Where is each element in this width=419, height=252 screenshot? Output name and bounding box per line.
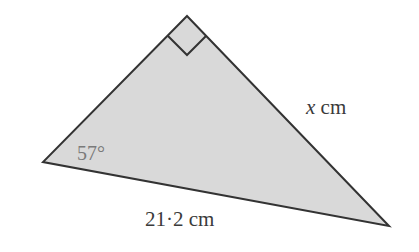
- side-x-unit: cm: [315, 95, 346, 119]
- angle-label: 57°: [77, 143, 105, 163]
- hypotenuse-label: 21·2 cm: [145, 209, 214, 230]
- side-x-variable: x: [306, 95, 315, 119]
- side-x-label: x cm: [306, 97, 346, 118]
- triangle-shape: [43, 16, 389, 226]
